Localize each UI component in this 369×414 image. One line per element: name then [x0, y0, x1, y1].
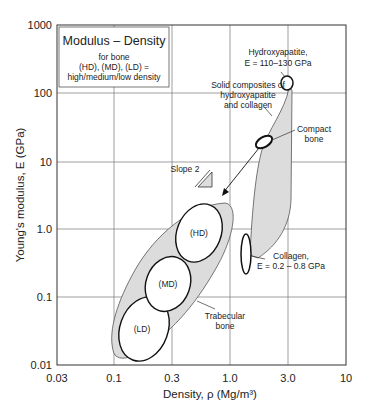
trabecular-label: bone [216, 321, 235, 331]
svg-text:0.3: 0.3 [164, 372, 179, 384]
svg-text:0.1: 0.1 [37, 291, 52, 303]
collagen-region [241, 234, 251, 274]
y-axis-label: Young's modulus, E (GPa) [14, 127, 26, 262]
y-tick-labels: 0.01 0.1 1.0 10 100 1000 [28, 19, 52, 371]
composites-label: hydroxyapatite [220, 90, 276, 100]
collagen-label: Collagen, [273, 251, 309, 261]
composites-label: and collagen [224, 100, 272, 110]
svg-text:3.0: 3.0 [280, 372, 295, 384]
md-label: (MD) [159, 279, 178, 289]
svg-text:1.0: 1.0 [37, 223, 52, 235]
subtitle-line: for bone [98, 52, 129, 62]
hydroxyapatite-range-label: E = 110–130 GPa [244, 58, 311, 68]
modulus-density-chart: Modulus – Density for bone (HD), (MD), (… [0, 0, 369, 414]
slope-triangle-icon [198, 172, 212, 187]
solid-composites-region [250, 88, 292, 258]
svg-text:100: 100 [34, 87, 52, 99]
compact-bone-label: Compact [297, 124, 332, 134]
hydroxyapatite-label: Hydroxyapatite, [248, 47, 307, 57]
x-tick-labels: 0.03 0.1 0.3 1.0 3.0 10 [46, 372, 352, 384]
svg-text:0.01: 0.01 [31, 359, 52, 371]
svg-text:0.1: 0.1 [106, 372, 121, 384]
arrow-line [223, 148, 259, 193]
svg-text:1000: 1000 [28, 19, 52, 31]
subtitle-line: high/medium/low density [67, 72, 161, 82]
composites-label: Solid composites of [211, 80, 285, 90]
ld-label: (LD) [134, 324, 151, 334]
svg-text:10: 10 [340, 372, 352, 384]
subtitle-line: (HD), (MD), (LD) = [79, 62, 149, 72]
trabecular-label: Trabecular [205, 311, 245, 321]
svg-text:0.03: 0.03 [46, 372, 67, 384]
x-axis-label: Density, ρ (Mg/m³) [163, 388, 257, 400]
compact-bone-label: bone [305, 134, 324, 144]
svg-text:1.0: 1.0 [222, 372, 237, 384]
slope-label: Slope 2 [171, 164, 200, 174]
svg-text:10: 10 [40, 156, 52, 168]
chart-title: Modulus – Density [63, 34, 167, 48]
collagen-range-label: E = 0.2 – 0.8 GPa [257, 261, 325, 271]
hd-label: (HD) [190, 228, 208, 238]
